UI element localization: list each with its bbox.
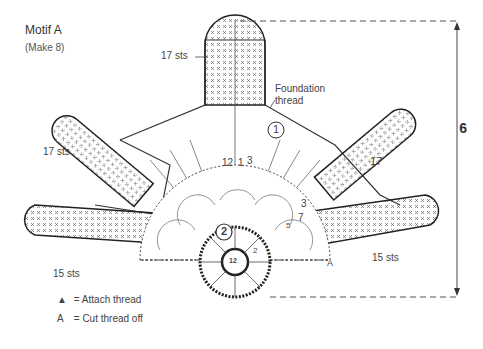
legend-attach-text: = Attach thread: [74, 294, 142, 305]
cut-thread-icon: A: [57, 313, 71, 324]
label-upper-left-arm: 17 sts: [43, 146, 70, 157]
attach-thread-icon: ▲: [57, 294, 71, 305]
foundation-line-1: Foundation: [275, 83, 325, 95]
dimension-label: 6: [459, 120, 467, 136]
row-label-1: 1: [238, 157, 244, 168]
legend-cut-text: = Cut thread off: [74, 313, 143, 324]
label-foundation-thread: Foundation thread: [275, 83, 325, 107]
fan-label-7: 7: [298, 212, 304, 223]
round-2-marker: 2: [221, 225, 227, 237]
label-lower-right-arm: 15 sts: [372, 252, 399, 263]
fan-label-5: 5: [286, 221, 290, 230]
legend-attach: ▲ = Attach thread: [57, 294, 141, 305]
foundation-line-2: thread: [275, 95, 325, 107]
label-upper-right-arm: 17: [370, 155, 382, 167]
round-1-marker: 1: [273, 123, 279, 135]
fan-label-3: 3: [301, 198, 307, 209]
label-lower-left-arm: 15 sts: [53, 268, 80, 279]
row-label-3: 3: [247, 155, 253, 166]
center-count: 12: [229, 257, 237, 264]
row-label-12: 12: [222, 157, 233, 168]
legend-cut: A = Cut thread off: [57, 313, 143, 324]
fan-label-2: 2: [253, 246, 257, 255]
attach-marker: A: [327, 258, 333, 268]
label-top-arm: 17 sts: [161, 50, 188, 61]
